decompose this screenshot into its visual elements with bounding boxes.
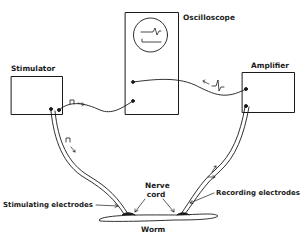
- label-nerve-cord-line1: Nerve: [145, 182, 165, 189]
- leader-nerve-cord-right: [163, 199, 174, 212]
- label-stimulator: Stimulator: [11, 65, 55, 72]
- nerve-cord-right: [177, 213, 189, 215]
- pulse-icon-2: [66, 138, 70, 142]
- action-potential-icon: [212, 80, 224, 91]
- stimulating-electrode-cable: [51, 111, 128, 214]
- worm-body: [100, 214, 218, 221]
- nerve-cord-left: [122, 213, 135, 215]
- arrow-icon-3: [71, 147, 75, 152]
- leader-nerve-cord-left: [135, 199, 145, 212]
- label-recording-electrodes: Recording electrodes: [216, 190, 300, 197]
- stimulator-box: [12, 77, 63, 115]
- oscilloscope-box: [126, 13, 179, 115]
- label-oscilloscope: Oscilloscope: [183, 14, 235, 21]
- label-stimulating-electrodes: Stimulating electrodes: [3, 202, 93, 209]
- arrow-icon-2: [203, 80, 209, 84]
- amplifier-box: [243, 73, 295, 113]
- diagram-canvas: Oscilloscope Stimulator Amplifier Nerve …: [0, 0, 305, 242]
- label-worm: Worm: [141, 226, 165, 233]
- label-nerve-cord-line2: cord: [146, 191, 166, 198]
- stimulator-terminal-1: [50, 108, 53, 111]
- wire-amplifier-to-oscilloscope: [133, 79, 246, 95]
- trace-action-potential-icon: [141, 28, 161, 35]
- oscilloscope-screen: [134, 18, 168, 52]
- label-amplifier: Amplifier: [251, 62, 289, 69]
- trace-stimulus-icon: [142, 39, 161, 42]
- leader-stimulating: [96, 204, 118, 208]
- recording-electrode-cable: [181, 107, 249, 214]
